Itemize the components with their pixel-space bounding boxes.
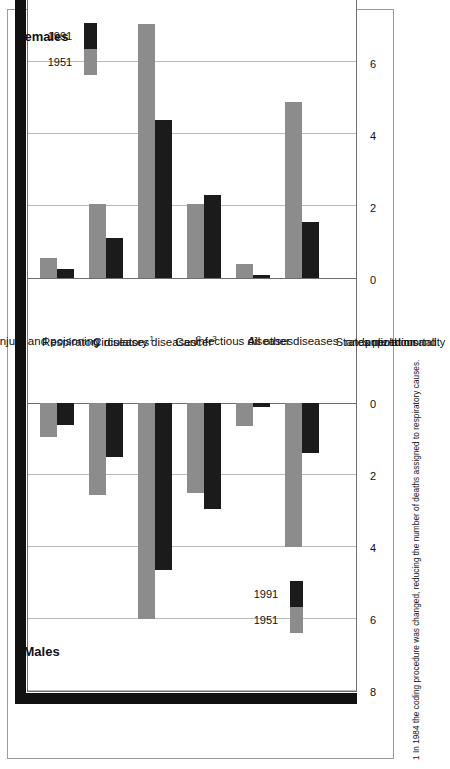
bar-females-1991-respiratory-diseases [106,238,123,278]
gridline-females-6 [28,61,356,62]
tick-females-4: 4 [358,130,388,142]
bar-males-1991-infectious-diseases [253,403,270,407]
bar-males-1991-circulatory-diseases [155,403,172,570]
tick-males-4: 4 [358,542,388,554]
bar-males-1991-cancer [204,403,221,509]
bar-males-1991-respiratory-diseases [106,403,123,457]
bar-males-1991-injury-and-poisoning [57,403,74,425]
chart-shadow-top [15,0,26,704]
panel-females: Females 1951 1991 [28,0,356,279]
bar-males-1951-injury-and-poisoning [40,403,57,437]
legend-swatch-males-1951 [290,607,303,633]
bar-females-1951-all-other-diseases [285,102,302,278]
tick-males-8: 8 [358,686,388,698]
panel-males: Males [28,403,356,691]
bar-males-1951-respiratory-diseases [89,403,106,495]
bar-males-1951-all-other-diseases [285,403,302,547]
tick-males-6: 6 [358,614,388,626]
chart-shadow-left [15,693,357,704]
legend-swatch-females-1951 [84,49,97,75]
gridline-males-4 [28,546,356,547]
chart-canvas: Males [27,0,357,692]
bar-females-1951-cancer [187,204,204,278]
bar-males-1991-all-other-diseases [302,403,319,453]
bar-males-1951-infectious-diseases [236,403,253,426]
gridline-females-4 [28,133,356,134]
legend-label-females-1991: 1991 [43,30,77,42]
gridline-males-6 [28,618,356,619]
tick-females-6: 6 [358,58,388,70]
legend-label-males-1991: 1991 [249,588,283,600]
tick-males-2: 2 [358,470,388,482]
tick-females-2: 2 [358,202,388,214]
footnote-1: 1 In 1984 the coding procedure was chang… [411,360,421,760]
bar-females-1991-cancer [204,195,221,278]
bar-females-1991-circulatory-diseases [155,120,172,278]
legend-label-males-1951: 1951 [249,614,283,626]
legend-label-females-1951: 1951 [43,56,77,68]
bar-females-1991-injury-and-poisoning [57,269,74,278]
legend-swatch-females-1991 [84,23,97,49]
bar-females-1951-respiratory-diseases [89,204,106,278]
bar-females-1951-injury-and-poisoning [40,258,57,278]
panel-title-males: Males [24,644,84,659]
gridline-males-8 [28,690,356,691]
bar-males-1951-circulatory-diseases [138,403,155,619]
bar-males-1951-cancer [187,403,204,493]
bar-females-1951-infectious-diseases [236,264,253,278]
axis-caption-line3: population [330,336,450,349]
bar-females-1991-all-other-diseases [302,222,319,278]
bar-females-1951-circulatory-diseases [138,24,155,278]
bar-females-1991-infectious-diseases [253,275,270,278]
legend-swatch-males-1991 [290,581,303,607]
